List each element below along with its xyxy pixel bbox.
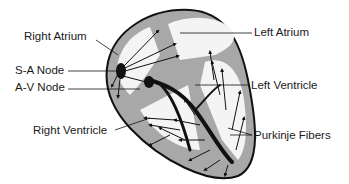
label-purkinje-fibers: Purkinje Fibers <box>254 130 331 142</box>
label-right-ventricle: Right Ventricle <box>33 125 107 137</box>
label-left-atrium: Left Atrium <box>254 27 309 39</box>
label-left-ventricle: Left Ventricle <box>251 80 317 92</box>
label-av-node: A-V Node <box>15 82 65 94</box>
label-sa-node: S-A Node <box>15 65 64 77</box>
label-right-atrium: Right Atrium <box>24 31 87 43</box>
